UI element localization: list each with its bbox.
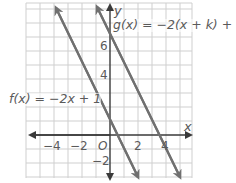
g-function-label: g(x) = −2(x + k) + 1 bbox=[113, 19, 236, 32]
x-tick-minus-2: −2 bbox=[70, 140, 88, 152]
x-tick-4: 4 bbox=[161, 140, 169, 152]
x-tick-2: 2 bbox=[134, 140, 142, 152]
y-tick-minus-2: −2 bbox=[92, 155, 110, 167]
x-tick-minus-4: −4 bbox=[43, 140, 61, 152]
origin-label: O bbox=[98, 140, 107, 152]
y-axis-label: y bbox=[114, 4, 122, 17]
y-tick-6: 6 bbox=[100, 40, 108, 52]
x-axis-label: x bbox=[184, 120, 192, 133]
y-tick-4: 4 bbox=[100, 69, 108, 81]
f-function-label: f(x) = −2x + 1 bbox=[9, 93, 101, 106]
